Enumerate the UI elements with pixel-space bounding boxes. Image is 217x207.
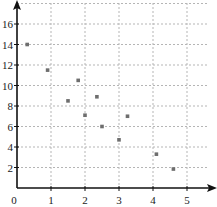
y-tick-label: 6 [8, 121, 14, 133]
grid-lines [17, 3, 208, 188]
data-point [83, 113, 87, 117]
axes [13, 0, 217, 192]
y-tick-label: 10 [2, 80, 14, 92]
data-point [46, 68, 50, 72]
data-point [117, 138, 121, 142]
data-point [66, 99, 70, 103]
x-tick-label: 3 [116, 194, 122, 206]
y-tick-label: 2 [8, 162, 14, 174]
x-tick-label: 2 [82, 194, 88, 206]
data-point [95, 95, 99, 99]
y-tick-label: 4 [8, 141, 14, 153]
x-tick-label: 1 [48, 194, 54, 206]
scatter-chart: 012345 246810121416 [0, 0, 217, 207]
y-tick-label: 8 [8, 100, 14, 112]
data-point [155, 152, 159, 156]
data-point [76, 79, 80, 83]
data-point [126, 114, 130, 118]
x-tick-label: 0 [11, 194, 17, 206]
data-point [172, 167, 176, 171]
y-tick-label: 16 [2, 18, 14, 30]
data-point [25, 43, 29, 47]
y-tick-label: 12 [2, 59, 13, 71]
y-tick-label: 14 [2, 39, 14, 51]
x-axis-ticks: 012345 [11, 186, 190, 206]
x-tick-label: 4 [150, 194, 156, 206]
x-tick-label: 5 [184, 194, 190, 206]
data-point [100, 125, 104, 129]
